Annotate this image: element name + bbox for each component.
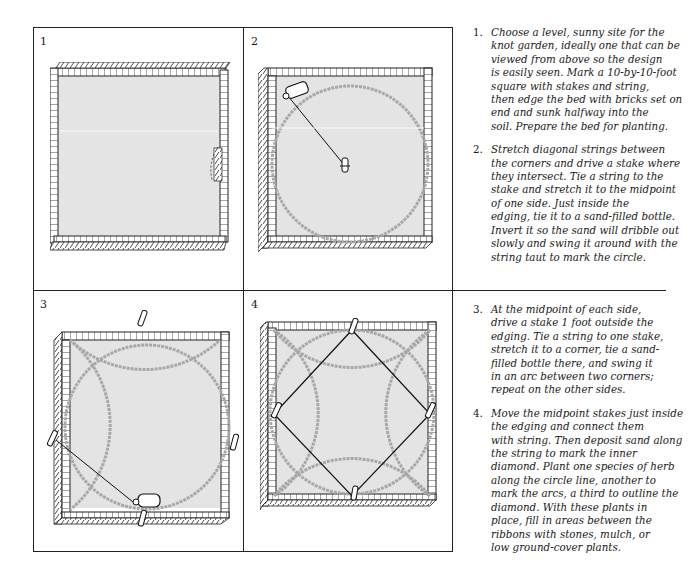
step-4-text: Move the midpoint stakes just inside the… bbox=[491, 407, 698, 554]
step-2-number: 2. bbox=[473, 143, 483, 156]
panel-4-illustration bbox=[260, 318, 440, 518]
step-2-text: Stretch diagonal strings between the cor… bbox=[491, 143, 698, 264]
step-4-number: 4. bbox=[473, 407, 483, 420]
step-3-text: At the midpoint of each side, drive a st… bbox=[491, 303, 698, 397]
panel-1-illustration bbox=[50, 62, 232, 254]
panel-1-number: 1 bbox=[40, 35, 47, 48]
panel-3-illustration bbox=[40, 310, 240, 530]
step-2: 2. Stretch diagonal strings between the … bbox=[473, 143, 698, 264]
panel-2-illustration bbox=[258, 62, 436, 254]
step-4: 4. Move the midpoint stakes just inside … bbox=[473, 407, 698, 554]
center-stake-icon bbox=[340, 158, 350, 172]
panel-4-number: 4 bbox=[251, 298, 258, 311]
step-1-text: Choose a level, sunny site for the knot … bbox=[491, 26, 698, 133]
step-3-number: 3. bbox=[473, 303, 483, 316]
step-1: 1. Choose a level, sunny site for the kn… bbox=[473, 26, 698, 133]
instructions-top: 1. Choose a level, sunny site for the kn… bbox=[473, 26, 698, 264]
step-3: 3. At the midpoint of each side, drive a… bbox=[473, 303, 698, 397]
instructions-bottom: 3. At the midpoint of each side, drive a… bbox=[473, 303, 698, 554]
bed bbox=[58, 76, 223, 239]
panel-2-number: 2 bbox=[251, 35, 258, 48]
panel-horizontal-divider bbox=[33, 290, 666, 291]
step-1-number: 1. bbox=[473, 26, 483, 39]
